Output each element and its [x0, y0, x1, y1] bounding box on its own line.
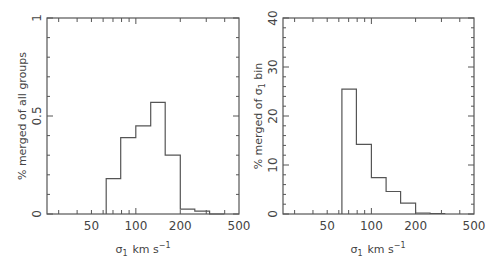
left-x-axis-label: σ1km s−1: [115, 241, 170, 258]
y-tick-label: 10: [266, 157, 280, 172]
y-tick-label: 30: [266, 59, 280, 74]
right-panel: 50100200500 010203040 % merged of σ1 bin…: [252, 10, 485, 258]
x-tick-label: 200: [169, 219, 192, 233]
left-panel: 50100200500 00.51 % merged of all groups…: [16, 14, 250, 258]
y-tick-label: 0: [30, 210, 44, 218]
x-tick-label: 100: [124, 219, 147, 233]
right-y-tick-labels: 010203040: [266, 10, 280, 217]
y-tick-label: 0: [266, 210, 280, 218]
left-y-ticks: [47, 18, 239, 214]
left-x-ticks: [59, 18, 225, 214]
left-histogram: [106, 102, 224, 214]
x-tick-label: 500: [228, 219, 251, 233]
left-x-tick-labels: 50100200500: [84, 219, 251, 233]
y-tick-label: 40: [266, 10, 280, 25]
y-tick-label: 0.5: [30, 106, 44, 125]
y-tick-label: 20: [266, 108, 280, 123]
y-tick-label: 1: [30, 14, 44, 22]
left-y-tick-labels: 00.51: [30, 14, 44, 218]
right-x-axis-label: σ1km s−1: [350, 241, 405, 258]
right-x-tick-labels: 50100200500: [320, 219, 486, 233]
x-tick-label: 50: [320, 219, 335, 233]
right-histogram: [342, 89, 445, 214]
x-tick-label: 50: [84, 219, 99, 233]
x-tick-label: 100: [360, 219, 383, 233]
x-tick-label: 200: [404, 219, 427, 233]
right-y-axis-label: % merged of σ1 bin: [252, 63, 267, 170]
chart-canvas: 50100200500 00.51 % merged of all groups…: [0, 0, 500, 265]
left-y-axis-label: % merged of all groups: [16, 52, 29, 180]
right-x-ticks: [295, 18, 460, 214]
x-tick-label: 500: [463, 219, 486, 233]
right-plot-frame: [283, 18, 474, 214]
left-plot-frame: [47, 18, 239, 214]
right-y-ticks: [283, 18, 474, 214]
